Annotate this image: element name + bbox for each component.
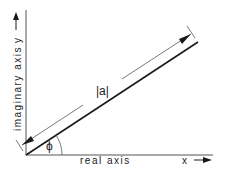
x-direction-arrow-icon xyxy=(194,157,212,163)
magnitude-arrow-start-icon xyxy=(22,136,34,145)
imaginary-axis-label: imaginary axis xyxy=(12,46,23,131)
angle-label: ϕ xyxy=(46,139,53,153)
y-direction-arrow-icon xyxy=(13,12,19,30)
magnitude-tick-start xyxy=(16,140,23,151)
real-axis-label: real axis xyxy=(80,155,131,166)
complex-plane-diagram: |a| ϕ real axis x imaginary axis y xyxy=(0,0,227,173)
x-axis-symbol: x xyxy=(182,155,189,166)
angle-arc xyxy=(56,135,62,155)
magnitude-label: |a| xyxy=(96,84,109,98)
y-axis-symbol: y xyxy=(12,37,23,44)
magnitude-arrow-end-icon xyxy=(179,34,191,44)
